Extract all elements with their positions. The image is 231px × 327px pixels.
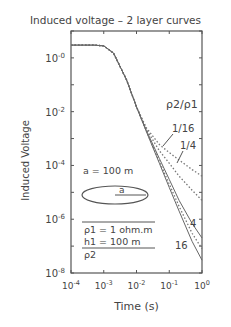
ratio-label: ρ2/ρ1 bbox=[166, 98, 198, 111]
y-tick-label: 10-4 bbox=[45, 159, 65, 171]
label-4: 4 bbox=[190, 218, 196, 229]
radius-a-label: a bbox=[119, 185, 125, 195]
rho1-label: ρ1 = 1 ohm.m bbox=[84, 224, 153, 235]
rho2-label: ρ2 bbox=[84, 249, 96, 260]
label-1-16: 1/16 bbox=[172, 123, 194, 134]
y-tick-label: 10-6 bbox=[45, 213, 65, 225]
h1-label: h1 = 100 m bbox=[84, 236, 140, 247]
y-tick-label: 10-0 bbox=[45, 52, 65, 64]
x-tick-label: 10-2 bbox=[128, 279, 146, 291]
x-tick-label: 10-4 bbox=[62, 279, 80, 291]
y-tick-label: 10-2 bbox=[45, 106, 65, 118]
chart-plot: 10-410-310-210-110010-010-210-410-610-8ρ… bbox=[0, 0, 231, 327]
label-16: 16 bbox=[175, 240, 188, 251]
label-1-4: 1/4 bbox=[180, 140, 196, 151]
x-tick-label: 10-1 bbox=[160, 279, 178, 291]
arrow-1-16 bbox=[163, 134, 173, 146]
arrow-1-4 bbox=[177, 151, 183, 163]
y-tick-label: 10-8 bbox=[45, 267, 65, 279]
x-tick-label: 10-3 bbox=[95, 279, 113, 291]
loop-radius-label: a = 100 m bbox=[83, 165, 133, 176]
x-tick-label: 100 bbox=[194, 279, 210, 291]
